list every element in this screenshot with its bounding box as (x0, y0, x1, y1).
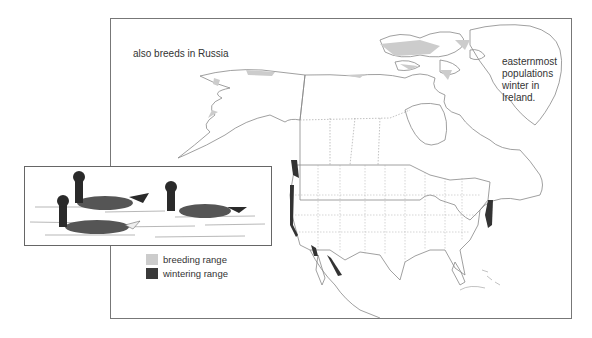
legend-label: breeding range (163, 254, 227, 265)
map-legend: breeding range wintering range (146, 253, 228, 281)
ireland-annotation: easternmost populations winter in Irelan… (502, 56, 562, 104)
geese-illustration-inset (24, 166, 272, 246)
legend-item-breeding: breeding range (146, 253, 228, 266)
legend-label: wintering range (163, 268, 228, 279)
breeding-alaska (208, 70, 275, 118)
wintering-range (290, 160, 493, 276)
goose-right (165, 181, 247, 218)
breeding-swatch (146, 254, 158, 265)
hudson-bay-outline (405, 103, 447, 145)
goose-left-back (73, 171, 149, 210)
wintering-swatch (146, 268, 158, 279)
canada-province-borders (300, 110, 410, 165)
legend-item-wintering: wintering range (146, 267, 228, 280)
caribbean-islands (460, 270, 500, 290)
russia-annotation: also breeds in Russia (133, 48, 229, 60)
alaska-outline (178, 70, 305, 158)
geese-illustration (25, 167, 272, 246)
